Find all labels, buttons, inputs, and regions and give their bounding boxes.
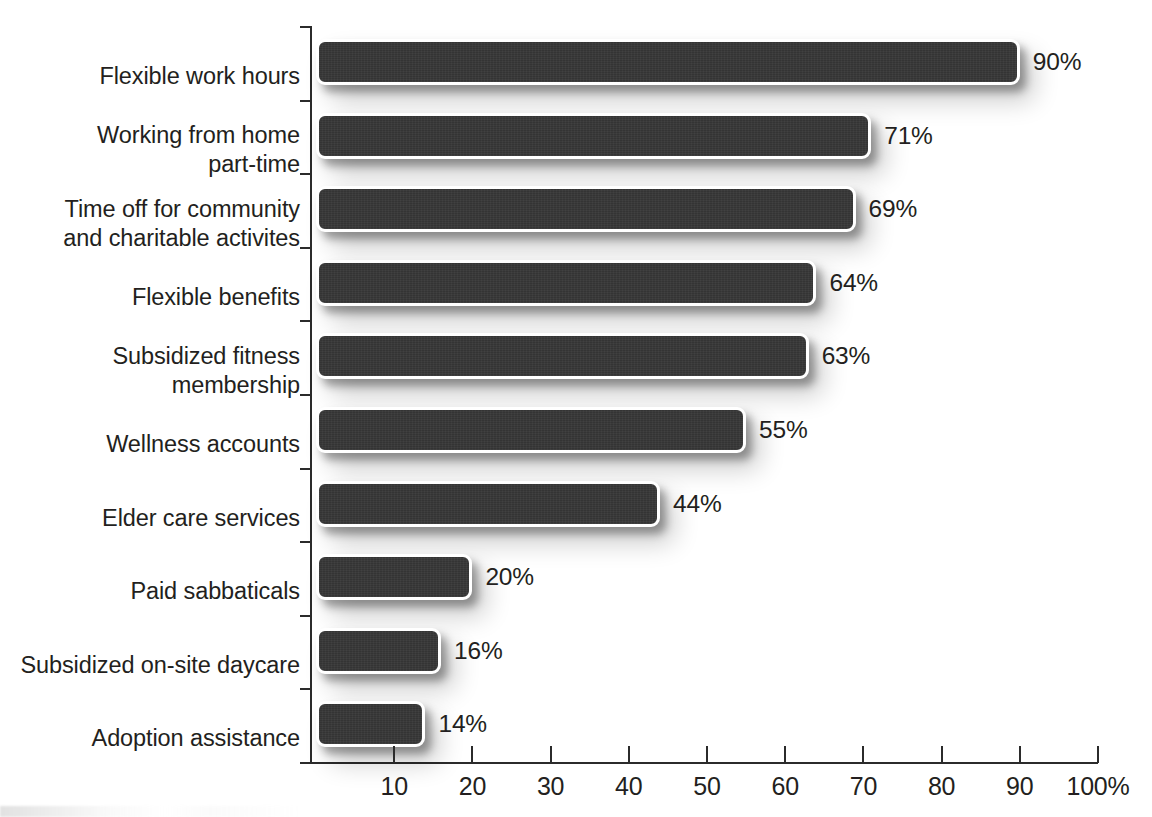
x-axis-tick — [1097, 746, 1099, 763]
bar-fill — [316, 481, 660, 527]
bar-fill — [316, 186, 856, 232]
bar-value-label: 63% — [822, 342, 870, 370]
y-axis-tick — [300, 541, 311, 543]
category-label: Paid sabbaticals — [0, 577, 300, 606]
y-axis-tick — [300, 688, 311, 690]
bar-value-label: 90% — [1033, 48, 1081, 76]
category-label: Flexible work hours — [0, 62, 300, 91]
bar-row: Flexible work hours90% — [0, 26, 1152, 99]
bar-row: Paid sabbaticals20% — [0, 541, 1152, 614]
plot-area: Flexible work hours90%Working from home … — [0, 0, 1152, 817]
x-axis-tick-label: 10 — [380, 772, 407, 801]
bar-fill — [316, 407, 746, 453]
bar-fill — [316, 554, 472, 600]
x-axis-tick — [784, 746, 786, 763]
bar-row: Time off for community and charitable ac… — [0, 173, 1152, 246]
category-label: Subsidized fitness membership — [0, 342, 300, 400]
bar-row: Adoption assistance14% — [0, 688, 1152, 761]
bar-value-label: 44% — [673, 490, 721, 518]
y-axis-tick — [300, 615, 311, 617]
y-axis-tick — [300, 26, 311, 28]
bar-value-label: 16% — [454, 637, 502, 665]
x-axis-tick — [941, 746, 943, 763]
bar-value-label: 55% — [759, 416, 807, 444]
bar-fill — [316, 628, 441, 674]
bar-row: Subsidized on-site daycare16% — [0, 615, 1152, 688]
x-axis-tick — [550, 746, 552, 763]
x-axis-tick-label: 60 — [771, 772, 798, 801]
bar-fill — [316, 701, 425, 747]
bar — [316, 39, 1020, 85]
bar-row: Elder care services44% — [0, 468, 1152, 541]
bar-value-label: 69% — [869, 195, 917, 223]
x-axis-tick-label: 80 — [928, 772, 955, 801]
category-label: Subsidized on-site daycare — [0, 651, 300, 680]
x-axis-tick-label: 40 — [615, 772, 642, 801]
bar-fill — [316, 260, 816, 306]
x-axis-tick — [628, 746, 630, 763]
bar — [316, 260, 816, 306]
bar — [316, 628, 441, 674]
bar-chart: Flexible work hours90%Working from home … — [0, 0, 1152, 817]
bar-fill — [316, 39, 1020, 85]
x-axis-tick — [393, 746, 395, 763]
x-axis-tick-label: 90 — [1006, 772, 1033, 801]
bar — [316, 186, 856, 232]
x-axis-tick — [706, 746, 708, 763]
bar — [316, 701, 425, 747]
bar — [316, 333, 809, 379]
bar-fill — [316, 113, 871, 159]
bar-value-label: 20% — [485, 563, 533, 591]
y-axis-tick — [300, 100, 311, 102]
y-axis-tick — [300, 173, 311, 175]
x-axis-tick — [862, 746, 864, 763]
y-axis-tick — [300, 468, 311, 470]
bar-value-label: 64% — [829, 269, 877, 297]
bar — [316, 554, 472, 600]
category-label: Flexible benefits — [0, 283, 300, 312]
x-axis-tick-label: 30 — [537, 772, 564, 801]
bar — [316, 113, 871, 159]
category-label: Working from home part-time — [0, 121, 300, 179]
x-axis-tick-label: 20 — [459, 772, 486, 801]
bar — [316, 481, 660, 527]
x-axis-tick — [1019, 746, 1021, 763]
category-label: Elder care services — [0, 504, 300, 533]
bar-value-label: 71% — [884, 122, 932, 150]
x-axis-tick — [471, 746, 473, 763]
category-label: Time off for community and charitable ac… — [0, 195, 300, 253]
bar-row: Subsidized fitness membership63% — [0, 320, 1152, 393]
bar — [316, 407, 746, 453]
y-axis-tick — [300, 247, 311, 249]
x-axis-tick-label: 50 — [693, 772, 720, 801]
y-axis-tick — [300, 394, 311, 396]
bar-row: Working from home part-time71% — [0, 100, 1152, 173]
x-axis-tick-label: 100% — [1066, 772, 1129, 801]
category-label: Adoption assistance — [0, 724, 300, 753]
bar-row: Wellness accounts55% — [0, 394, 1152, 467]
y-axis-tick — [300, 320, 311, 322]
bar-row: Flexible benefits64% — [0, 247, 1152, 320]
x-axis-line — [300, 762, 1098, 764]
x-axis-tick-label: 70 — [850, 772, 877, 801]
bar-fill — [316, 333, 809, 379]
category-label: Wellness accounts — [0, 430, 300, 459]
bar-value-label: 14% — [438, 710, 486, 738]
